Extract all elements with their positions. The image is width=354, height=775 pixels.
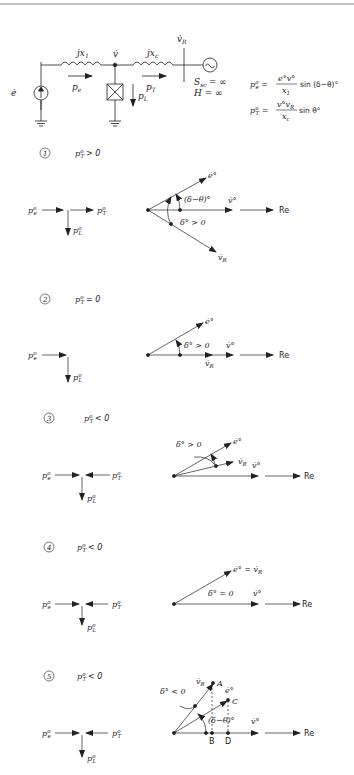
pt-label: pT [146,82,157,93]
svg-text:2: 2 [42,296,48,304]
e-phasor-label: ė° [208,171,217,180]
re-axis-label: Re [304,472,314,481]
equation-pt: poT = v°vR xc sin θ° [250,100,321,122]
case-4-header: 4 poT< 0 [44,542,102,553]
equations: poe = e°v° x1 sin (δ−θ)° poT = v°vR xc s… [250,74,338,122]
point-a-label: A [216,679,223,688]
source-label: ė [11,88,16,98]
point-c-label: C [232,697,238,706]
pl-label: pL [138,91,148,102]
x1-label: jx1 [75,48,89,59]
generator-icon [203,58,217,72]
v-phasor-label: v̇° [252,461,261,470]
v-phasor-label: v̇° [251,717,260,726]
angle-label: δ° > 0 [176,440,202,449]
angle-label: δ° = 0 [208,589,234,598]
h-label: H = ∞ [193,88,223,98]
v-phasor-label: v̇° [226,341,235,350]
case-5-power-flow [55,733,108,757]
svg-text:poT =: poT = [250,105,268,116]
diagram-canvas: ė jx1 v̇ jxc v̇R pe pT pL Ssc= ∞ H = ∞ p… [0,0,354,775]
xc-label: jxc [145,48,159,59]
re-axis-label: Re [304,729,314,738]
pe-label: poe [42,470,51,481]
ground-icon [109,121,121,126]
svg-text:v°vR: v°vR [277,100,294,110]
svg-text:e°v°: e°v° [278,74,295,83]
case-1-header: 1 poT> 0 [40,148,100,159]
pt-label: poT [112,599,121,610]
case-1-power-flow [42,210,93,235]
v-phasor-label: v̇° [253,589,262,598]
angle-label: (δ−θ)° [184,195,211,204]
svg-text:x1: x1 [282,86,290,96]
pe-label: poe [42,728,51,739]
case-3-power-flow [55,475,110,500]
re-axis-label: Re [279,351,289,360]
vr-phasor-label: v̇R [196,677,205,687]
e-phasor-label: ė° [225,686,234,695]
vr-phasor-label: v̇R [205,359,214,369]
pe-label: poe [28,205,37,216]
point-b-label: B [209,737,215,746]
svg-text:poe =: poe = [250,79,268,90]
case-1-phasor [146,178,273,252]
pl-label: poL [87,753,96,764]
equation-pe: poe = e°v° x1 sin (δ−θ)° [250,74,338,96]
pl-label: poL [73,372,82,383]
case-2-power-flow [42,355,68,382]
pt-label: poT [112,470,121,481]
ssc-label: Ssc= ∞ [194,77,227,88]
case-5-phasor [172,681,300,734]
svg-text:poT> 0: poT> 0 [75,148,100,159]
vr-phasor-label: v̇R [218,253,227,263]
e-phasor-label: ė° [205,317,214,326]
svg-text:xc: xc [282,112,290,122]
inductor-x1-icon [61,62,115,65]
svg-text:poT= 0: poT= 0 [75,294,100,305]
angle-label: δ° > 0 [184,341,210,350]
vr-phasor-label: v̇R [238,457,247,467]
vr-label: v̇R [177,34,187,45]
node-v-label: v̇ [113,49,118,59]
load-icon [107,84,123,100]
pl-label: poL [73,225,82,236]
re-axis-label: Re [302,600,312,609]
e-phasor-label: ė° [233,437,242,446]
pl-label: poL [87,622,96,633]
case-4-phasor [172,571,300,606]
pt-label: poT [112,728,121,739]
svg-text:poT< 0: poT< 0 [77,542,102,553]
svg-text:1: 1 [43,150,47,158]
angle-label: (δ−θ)° [208,716,235,725]
pe-label: pe [72,82,82,93]
case-3-header: 3 poT< 0 [44,413,109,424]
re-axis-label: Re [279,206,289,215]
case-5-header: 5 poT< 0 [44,671,102,682]
svg-text:poT< 0: poT< 0 [84,413,109,424]
case-2-phasor [146,323,273,357]
svg-text:4: 4 [46,544,51,552]
ground-icon [35,100,47,126]
circuit [34,48,217,126]
svg-text:sin θ°: sin θ° [299,106,321,115]
v-phasor-label: v̇° [228,196,237,205]
e-phasor-label: ė° = v̇R [233,565,262,575]
inductor-xc-icon [133,62,184,65]
angle-label: δ° < 0 [160,687,186,696]
pl-label: poL [87,493,96,504]
case-4-power-flow [55,604,108,625]
case-2-header: 2 poT= 0 [40,294,100,305]
pe-label: poe [28,350,37,361]
svg-text:5: 5 [47,673,52,681]
pt-label: poT [97,205,106,216]
angle-label: δ° > 0 [180,218,206,227]
svg-text:3: 3 [47,415,52,423]
pe-label: poe [42,599,51,610]
point-d-label: D [225,737,231,746]
svg-text:sin (δ−θ)°: sin (δ−θ)° [300,80,338,89]
svg-text:poT< 0: poT< 0 [77,671,102,682]
